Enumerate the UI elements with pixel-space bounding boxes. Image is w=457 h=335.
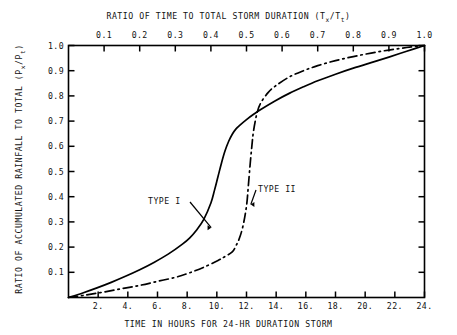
bottom-tick-label-11: 24. (417, 301, 433, 311)
bottom-tick-label-9: 20. (357, 301, 373, 311)
bottom-tick-label-0: 2. (93, 301, 104, 311)
plot-frame (69, 46, 425, 298)
bottom-tick-label-6: 14. (268, 301, 284, 311)
top-axis-title: RATIO OF TIME TO TOTAL STORM DURATION (T… (0, 11, 457, 23)
left-tick-label-5: 0.6 (40, 141, 64, 151)
left-tick-label-7: 0.8 (40, 91, 64, 101)
top-tick-label-9: 1.0 (417, 30, 433, 40)
top-tick-label-3: 0.4 (203, 30, 219, 40)
data-curves (69, 46, 425, 298)
leader-1 (251, 190, 256, 204)
left-tick-label-0: 0.1 (40, 267, 64, 277)
axes-frame (69, 46, 425, 298)
bottom-tick-label-1: 4. (122, 301, 133, 311)
bottom-axis-title: TIME IN HOURS FOR 24-HR DURATION STORM (0, 319, 457, 329)
axis-ticks (69, 46, 425, 298)
plot-area (0, 0, 457, 335)
left-tick-label-2: 0.3 (40, 217, 64, 227)
curve-label-type-ii: TYPE II (258, 184, 296, 194)
top-tick-label-4: 0.5 (239, 30, 255, 40)
left-tick-label-4: 0.5 (40, 167, 64, 177)
bottom-tick-label-2: 6. (152, 301, 163, 311)
top-tick-label-0: 0.1 (96, 30, 112, 40)
left-tick-label-3: 0.4 (40, 192, 64, 202)
bottom-tick-label-8: 18. (328, 301, 344, 311)
top-tick-label-8: 0.9 (381, 30, 397, 40)
left-tick-label-1: 0.2 (40, 242, 64, 252)
bottom-tick-label-5: 12. (239, 301, 255, 311)
left-axis-title: RATIO OF ACCUMULATED RAINFALL TO TOTAL (… (14, 46, 26, 294)
left-tick-label-9: 1.0 (40, 41, 64, 51)
top-tick-label-1: 0.2 (132, 30, 148, 40)
top-tick-label-7: 0.8 (345, 30, 361, 40)
top-tick-label-5: 0.6 (274, 30, 290, 40)
bottom-tick-label-3: 8. (182, 301, 193, 311)
top-tick-label-2: 0.3 (167, 30, 183, 40)
top-tick-label-6: 0.7 (310, 30, 326, 40)
left-tick-label-8: 0.9 (40, 66, 64, 76)
bottom-tick-label-10: 22. (387, 301, 403, 311)
curve-label-type-i: TYPE I (148, 196, 181, 206)
curve-type-ii (69, 46, 425, 298)
bottom-tick-label-4: 10. (209, 301, 225, 311)
curve-type-i (69, 46, 425, 298)
left-tick-label-6: 0.7 (40, 116, 64, 126)
bottom-tick-label-7: 16. (298, 301, 314, 311)
rainfall-distribution-chart: RATIO OF TIME TO TOTAL STORM DURATION (T… (0, 0, 457, 335)
